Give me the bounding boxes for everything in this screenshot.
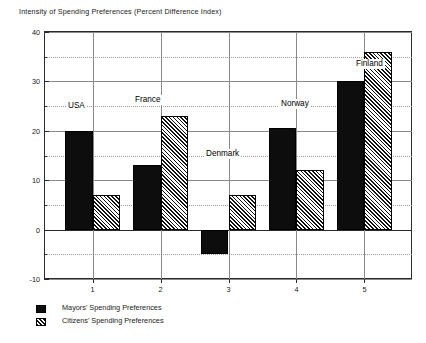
x-tick-3 bbox=[229, 279, 230, 283]
bar-norway-citizens bbox=[296, 170, 323, 229]
y-axis-label-20: 20 bbox=[16, 126, 40, 135]
y-tick-0 bbox=[44, 230, 49, 231]
gridline-x-1 bbox=[93, 32, 94, 279]
annotation-norway: Norway bbox=[279, 99, 311, 109]
x-tick-5 bbox=[364, 279, 365, 283]
legend-item-citizens: Citizens' Spending Preferences bbox=[36, 316, 336, 329]
annotation-denmark: Denmark bbox=[204, 149, 241, 159]
legend-swatch-solid bbox=[36, 305, 46, 313]
y-tick-minor-25 bbox=[44, 106, 47, 107]
x-axis-label-5: 5 bbox=[354, 285, 374, 294]
bar-usa-citizens bbox=[93, 195, 120, 230]
legend-label: Citizens' Spending Preferences bbox=[62, 316, 164, 325]
y-axis-label-0: 0 bbox=[16, 225, 40, 234]
y-tick--10 bbox=[44, 279, 49, 280]
gridline-x-4 bbox=[296, 32, 297, 279]
bar-finland-citizens bbox=[364, 52, 391, 230]
bar-denmark-citizens bbox=[229, 195, 256, 230]
y-tick-minor--5 bbox=[44, 254, 47, 255]
legend-swatch-hatched bbox=[36, 318, 46, 326]
y-tick-40 bbox=[44, 32, 49, 33]
bar-denmark-mayors bbox=[201, 230, 228, 255]
y-tick-30 bbox=[44, 81, 49, 82]
annotation-finland: Finland bbox=[354, 59, 385, 69]
x-tick-4 bbox=[296, 279, 297, 283]
y-tick-20 bbox=[44, 131, 49, 132]
y-tick-minor-15 bbox=[44, 156, 47, 157]
x-tick-2 bbox=[161, 279, 162, 283]
y-tick-minor-35 bbox=[44, 57, 47, 58]
bar-usa-mayors bbox=[65, 131, 92, 230]
y-axis-label-10: 10 bbox=[16, 176, 40, 185]
y-axis-label-30: 30 bbox=[16, 77, 40, 86]
bar-finland-mayors bbox=[337, 81, 364, 229]
annotation-france: France bbox=[133, 95, 162, 105]
y-tick-minor-5 bbox=[44, 205, 47, 206]
legend-item-mayors: Mayors' Spending Preferences bbox=[36, 303, 336, 316]
chart-title: Intensity of Spending Preferences (Perce… bbox=[19, 7, 222, 16]
y-axis-labels: 403020100-10 bbox=[14, 32, 40, 279]
x-tick-1 bbox=[93, 279, 94, 283]
x-axis-label-2: 2 bbox=[151, 285, 171, 294]
x-axis-label-1: 1 bbox=[83, 285, 103, 294]
bar-france-mayors bbox=[133, 165, 160, 229]
y-axis-label--10: -10 bbox=[16, 275, 40, 284]
y-axis-label-40: 40 bbox=[16, 28, 40, 37]
legend-label: Mayors' Spending Preferences bbox=[62, 303, 162, 312]
x-axis-label-3: 3 bbox=[219, 285, 239, 294]
bar-norway-mayors bbox=[269, 128, 296, 229]
chart-legend: Mayors' Spending PreferencesCitizens' Sp… bbox=[36, 303, 336, 329]
y-tick-10 bbox=[44, 180, 49, 181]
bar-france-citizens bbox=[161, 116, 188, 230]
x-axis-label-4: 4 bbox=[286, 285, 306, 294]
annotation-usa: USA bbox=[66, 101, 87, 111]
